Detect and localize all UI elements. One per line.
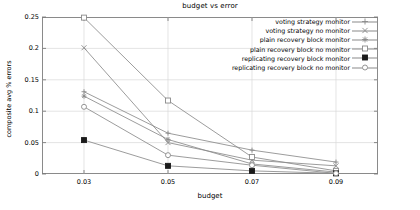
- data-point-marker: [250, 168, 255, 173]
- legend-open-square-icon: [352, 45, 378, 54]
- legend-item-label: plain recovery block monitor: [260, 36, 352, 43]
- legend-item[interactable]: replicating recovery block no monitor: [218, 63, 378, 72]
- legend-open-circle-icon: [352, 63, 378, 72]
- data-point-marker: [166, 163, 171, 168]
- data-point-marker: [250, 155, 255, 160]
- legend-item-label: replicating recovery block monitor: [242, 55, 352, 62]
- data-point-marker: [82, 15, 87, 20]
- x-tick-label: 0.05: [161, 178, 175, 186]
- legend-item[interactable]: plain recovery block monitor: [218, 35, 378, 44]
- series-line: [84, 96, 336, 172]
- x-tick-label: 0.07: [245, 178, 259, 186]
- legend-asterisk-icon: [352, 35, 378, 44]
- data-point-marker: [82, 138, 87, 143]
- series-voting-strategy-monitor: [82, 89, 339, 164]
- series-plain-recovery-block-monitor: [82, 94, 339, 175]
- legend-item-label: voting strategy monitor: [275, 18, 352, 25]
- data-point-marker: [166, 98, 171, 103]
- x-axis-title: budget: [0, 192, 420, 200]
- legend-item-label: replicating recovery block no monitor: [232, 64, 352, 71]
- data-point-marker: [166, 153, 171, 158]
- legend: voting strategy monitorvoting strategy n…: [218, 17, 378, 72]
- x-tick-label: 0.09: [329, 178, 343, 186]
- legend-item-label: plain recovery block no monitor: [250, 46, 352, 53]
- legend-item[interactable]: plain recovery block no monitor: [218, 45, 378, 54]
- x-tick-label: 0.03: [77, 178, 91, 186]
- data-point-marker: [82, 104, 87, 109]
- legend-item[interactable]: replicating recovery block monitor: [218, 54, 378, 63]
- data-point-marker: [334, 171, 339, 176]
- legend-item-label: voting strategy no monitor: [265, 27, 352, 34]
- legend-item[interactable]: voting strategy monitor: [218, 17, 378, 26]
- legend-cross-icon: [352, 26, 378, 35]
- chart-container: budget vs error 00.050.10.150.20.25 budg…: [0, 0, 420, 210]
- data-point-marker: [250, 163, 255, 168]
- y-axis-title: composite avg % errors: [5, 39, 13, 159]
- legend-filled-square-icon: [352, 54, 378, 63]
- legend-marker-icon: [361, 63, 370, 73]
- legend-plus-icon: [352, 17, 378, 26]
- legend-item[interactable]: voting strategy no monitor: [218, 26, 378, 35]
